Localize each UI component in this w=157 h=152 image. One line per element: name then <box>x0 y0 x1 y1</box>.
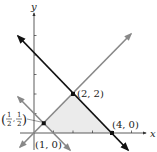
label-4-0: (4, 0) <box>112 119 139 130</box>
point-4-0 <box>110 131 114 135</box>
point-2-2 <box>71 92 75 96</box>
svg-text:2: 2 <box>17 120 21 128</box>
svg-text:(: ( <box>1 112 6 127</box>
label-2-2: (2, 2) <box>77 88 104 99</box>
svg-text:,: , <box>13 115 15 123</box>
label-1-0: (1, 0) <box>35 139 62 150</box>
graph: y x (2, 2) (4, 0) (1, 0) ( 1 2 , 1 2 ) <box>0 0 157 152</box>
svg-text:): ) <box>22 112 27 127</box>
svg-text:1: 1 <box>17 111 21 119</box>
x-axis-label: x <box>150 128 156 139</box>
svg-text:1: 1 <box>7 111 11 119</box>
y-axis-label: y <box>30 1 37 12</box>
svg-text:2: 2 <box>7 120 11 128</box>
point-half-half <box>42 121 46 125</box>
